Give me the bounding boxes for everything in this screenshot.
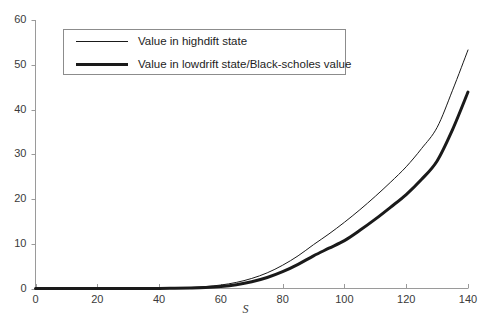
y-tick-label: 40 [0,104,27,115]
legend-item-highdrift: Value in highdift state [64,30,345,53]
chart-figure: 0102030405060 020406080100120140 S Value… [0,0,491,326]
legend-line-sample-thin-icon [76,41,128,42]
series-line-highdrift [36,50,469,289]
y-axis-ticks [32,21,36,290]
y-tick-label: 0 [0,283,27,294]
chart-legend: Value in highdift state Value in lowdrif… [63,29,346,75]
legend-label-highdrift: Value in highdift state [138,36,247,48]
y-tick-label: 10 [0,238,27,249]
legend-item-lowdrift: Value in lowdrift state/Black-scholes va… [64,53,345,76]
x-axis-label: S [0,302,491,317]
y-tick-label: 30 [0,148,27,159]
legend-line-sample-thick-icon [76,63,128,66]
y-tick-label: 20 [0,193,27,204]
legend-label-lowdrift: Value in lowdrift state/Black-scholes va… [138,59,351,71]
y-tick-label: 60 [0,14,27,25]
series-line-lowdrift [36,92,469,288]
y-tick-label: 50 [0,59,27,70]
series-group [36,50,469,289]
